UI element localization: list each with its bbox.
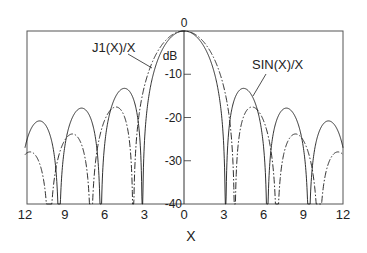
y-tick-label: -20 [165,111,183,125]
x-tick-label: 9 [300,207,307,222]
x-ticks-group: 12963036912 [18,207,350,222]
y-ticks-group: 0-10-20-30-40 [165,16,191,211]
y-tick-label: -10 [165,67,183,81]
x-tick-label: 0 [180,207,187,222]
annotation-j1-leader [128,54,152,68]
x-tick-label: 12 [18,207,32,222]
x-axis-label: X [186,228,196,244]
y-tick-label: -30 [165,154,183,168]
annotation-j1: J1(X)/X [92,40,136,55]
x-tick-label: 6 [101,207,108,222]
x-tick-label: 3 [220,207,227,222]
chart: 0-10-20-30-40 12963036912 dB X J1(X)/X S… [0,0,367,253]
x-tick-label: 6 [260,207,267,222]
y-axis-label: dB [163,49,178,63]
y-tick-label: 0 [181,16,188,30]
x-tick-label: 3 [141,207,148,222]
annotation-sinx-leader [253,74,266,96]
x-tick-label: 9 [61,207,68,222]
x-tick-label: 12 [336,207,350,222]
annotation-sinx: SIN(X)/X [252,57,304,72]
